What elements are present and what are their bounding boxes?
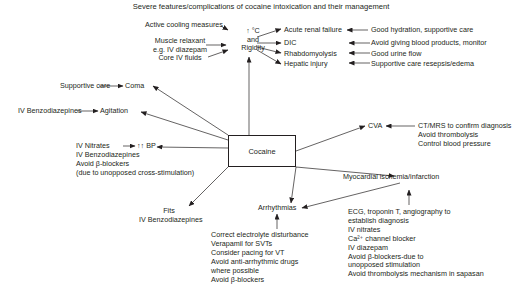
complication-dic: DIC xyxy=(284,39,296,48)
arrhythmias-management: Correct electrolyte disturbance Verapami… xyxy=(211,231,308,284)
cocaine-center-node: Cocaine xyxy=(228,135,296,167)
arrhythmias-node: Arrhythmias xyxy=(258,204,296,213)
hyperthermia-node: ↑ °C and Rigidity xyxy=(236,27,270,53)
mi-node: Myocardial ischemia/infarction xyxy=(343,173,439,182)
diagram-title: Severe features/complications of cocaine… xyxy=(0,2,522,11)
coma-node: Coma xyxy=(125,82,144,91)
treatment-active-cooling: Active cooling measures xyxy=(145,21,223,30)
agitation-node: Agitation xyxy=(100,107,128,116)
mi-management: ECG, troponin T, angiography to establis… xyxy=(348,208,484,279)
cva-management: CT/MRS to confirm diagnosis Avoid thromb… xyxy=(418,122,511,149)
agitation-management: IV Benzodiazepines xyxy=(18,107,82,116)
bp-management: IV Nitrates IV Benzodiazepines Avoid β-b… xyxy=(76,142,194,178)
complication-rhabdomyolysis: Rhabdomyolysis xyxy=(284,50,337,59)
bp-node: ↑↑ BP xyxy=(137,142,156,151)
management-rhabdomyolysis: Good urine flow xyxy=(371,50,421,59)
complication-acute-renal-failure: Acute renal failure xyxy=(284,26,342,35)
management-hepatic-injury: Supportive care resepsis/edema xyxy=(371,60,474,69)
double-up-arrow-icon: ↑↑ xyxy=(137,141,144,150)
cva-node: CVA xyxy=(368,122,382,131)
management-acute-renal-failure: Good hydration, supportive care xyxy=(371,26,473,35)
fits-node: Fits IV Benzodiazepines xyxy=(139,207,199,224)
complication-hepatic-injury: Hepatic injury xyxy=(284,60,328,69)
treatment-muscle-relaxant: Muscle relaxant e.g. IV diazepam Core IV… xyxy=(152,37,208,63)
management-dic: Avoid giving blood products, monitor xyxy=(371,39,487,48)
coma-management: Supportive care xyxy=(60,82,110,91)
up-arrow-icon: ↑ xyxy=(246,27,250,34)
